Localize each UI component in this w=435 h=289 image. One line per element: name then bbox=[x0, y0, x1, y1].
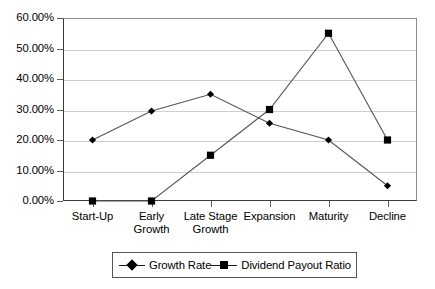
y-axis-tick-label: 0.00% bbox=[0, 195, 54, 206]
plot-area bbox=[63, 18, 417, 201]
x-axis-tick-label-line: Decline bbox=[340, 210, 435, 223]
legend-entry[interactable]: Dividend Payout Ratio bbox=[211, 259, 351, 271]
legend-entry[interactable]: Growth Rate bbox=[119, 259, 211, 271]
line-chart: 0.00%10.00%20.00%30.00%40.00%50.00%60.00… bbox=[0, 0, 435, 289]
gridline bbox=[64, 80, 416, 81]
gridline bbox=[64, 172, 416, 173]
chart-legend: Growth RateDividend Payout Ratio bbox=[112, 252, 357, 278]
x-axis-tick-mark bbox=[388, 201, 389, 207]
y-axis-tick-label: 30.00% bbox=[0, 104, 54, 115]
gridline bbox=[64, 50, 416, 51]
square-marker-icon bbox=[211, 259, 237, 271]
y-axis-tick-label: 20.00% bbox=[0, 134, 54, 145]
x-axis-tick-mark bbox=[329, 201, 330, 207]
x-axis-tick-mark bbox=[270, 201, 271, 207]
y-axis-tick-label: 50.00% bbox=[0, 43, 54, 54]
gridline bbox=[64, 141, 416, 142]
y-axis-tick-label: 60.00% bbox=[0, 12, 54, 23]
x-axis-tick-mark bbox=[211, 201, 212, 207]
x-axis-tick-label-line: Growth bbox=[163, 223, 259, 236]
x-axis-tick-mark bbox=[152, 201, 153, 207]
legend-label: Growth Rate bbox=[149, 259, 211, 271]
y-axis-tick-label: 10.00% bbox=[0, 165, 54, 176]
y-axis-tick-label: 40.00% bbox=[0, 73, 54, 84]
legend-key-marker bbox=[220, 261, 228, 269]
gridline bbox=[64, 111, 416, 112]
diamond-marker-icon bbox=[119, 259, 145, 271]
legend-key-marker bbox=[126, 259, 137, 270]
x-axis-tick-mark bbox=[93, 201, 94, 207]
y-axis-tick-mark bbox=[57, 201, 63, 202]
x-axis-tick-label: Decline bbox=[340, 210, 435, 223]
legend-label: Dividend Payout Ratio bbox=[241, 259, 351, 271]
